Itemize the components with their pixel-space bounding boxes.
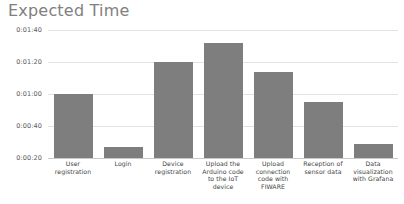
x-axis-category-label-line: registration xyxy=(148,168,198,176)
expected-time-bar-chart: Expected Time 0:01:400:01:200:01:000:00:… xyxy=(0,0,404,204)
x-axis-category-label-line: Upload the xyxy=(198,160,248,168)
x-axis-category-label-line: visualization xyxy=(348,168,398,176)
x-axis-category-label-line: FIWARE xyxy=(248,183,298,191)
bar xyxy=(104,147,143,158)
bar-series xyxy=(48,30,398,158)
x-axis-category-label-line: Device xyxy=(148,160,198,168)
x-axis-category-label-line: Login xyxy=(98,160,148,168)
x-axis-category-label: Login xyxy=(98,160,148,168)
bar xyxy=(354,144,393,158)
y-axis-tick-label: 0:00:40 xyxy=(16,122,42,130)
y-axis-tick-label: 0:00:20 xyxy=(16,154,42,162)
x-axis-category-label-line: device xyxy=(198,183,248,191)
x-axis-category-label: Userregistration xyxy=(48,160,98,175)
bar xyxy=(204,43,243,158)
chart-title: Expected Time xyxy=(8,1,130,20)
x-axis-category-label-line: Arduino code xyxy=(198,168,248,176)
x-axis-category-label: Upload theArduino codeto the IoTdevice xyxy=(198,160,248,190)
x-axis-category-label-line: Reception of xyxy=(298,160,348,168)
bar xyxy=(54,94,93,158)
x-axis-category-label-line: sensor data xyxy=(298,168,348,176)
x-axis-line xyxy=(48,158,398,159)
bar xyxy=(154,62,193,158)
x-axis-category-label: Uploadconnectioncode withFIWARE xyxy=(248,160,298,190)
x-axis-category-labels: UserregistrationLoginDeviceregistrationU… xyxy=(48,160,398,204)
x-axis-category-label: Deviceregistration xyxy=(148,160,198,175)
x-axis-category-label-line: Upload xyxy=(248,160,298,168)
x-axis-category-label-line: connection xyxy=(248,168,298,176)
bar xyxy=(254,72,293,158)
bar xyxy=(304,102,343,158)
y-axis-tick-label: 0:01:00 xyxy=(16,90,42,98)
x-axis-category-label: Reception ofsensor data xyxy=(298,160,348,175)
x-axis-category-label-line: with Grafana xyxy=(348,175,398,183)
x-axis-category-label-line: to the IoT xyxy=(198,175,248,183)
x-axis-category-label-line: registration xyxy=(48,168,98,176)
x-axis-category-label-line: User xyxy=(48,160,98,168)
x-axis-category-label-line: code with xyxy=(248,175,298,183)
x-axis-category-label-line: Data xyxy=(348,160,398,168)
y-axis-tick-labels: 0:01:400:01:200:01:000:00:400:00:20 xyxy=(0,30,46,158)
y-axis-tick-label: 0:01:40 xyxy=(16,26,42,34)
x-axis-category-label: Datavisualizationwith Grafana xyxy=(348,160,398,183)
y-axis-tick-label: 0:01:20 xyxy=(16,58,42,66)
